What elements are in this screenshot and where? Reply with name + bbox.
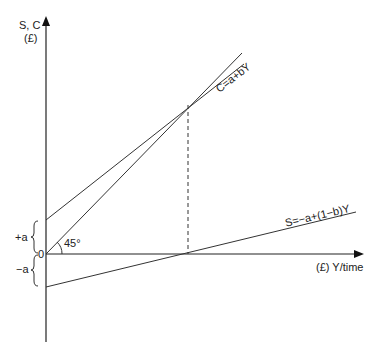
x-axis-label: (£) Y/time — [316, 262, 363, 273]
forty-five-degree-line — [46, 53, 242, 254]
y-axis-label-line1: S, C — [19, 20, 40, 31]
angle-arc — [57, 242, 62, 254]
plus-a-label: +a — [15, 232, 28, 243]
origin-label: 0 — [38, 249, 44, 260]
y-axis-arrow-icon — [42, 16, 50, 26]
minus-a-brace — [31, 255, 38, 286]
plus-a-brace — [31, 221, 38, 253]
angle-label: 45° — [64, 238, 81, 249]
diagram-canvas — [0, 0, 379, 357]
y-axis-label-line2: (£) — [24, 33, 37, 44]
minus-a-label: −a — [16, 264, 29, 275]
x-axis-arrow-icon — [354, 250, 364, 258]
